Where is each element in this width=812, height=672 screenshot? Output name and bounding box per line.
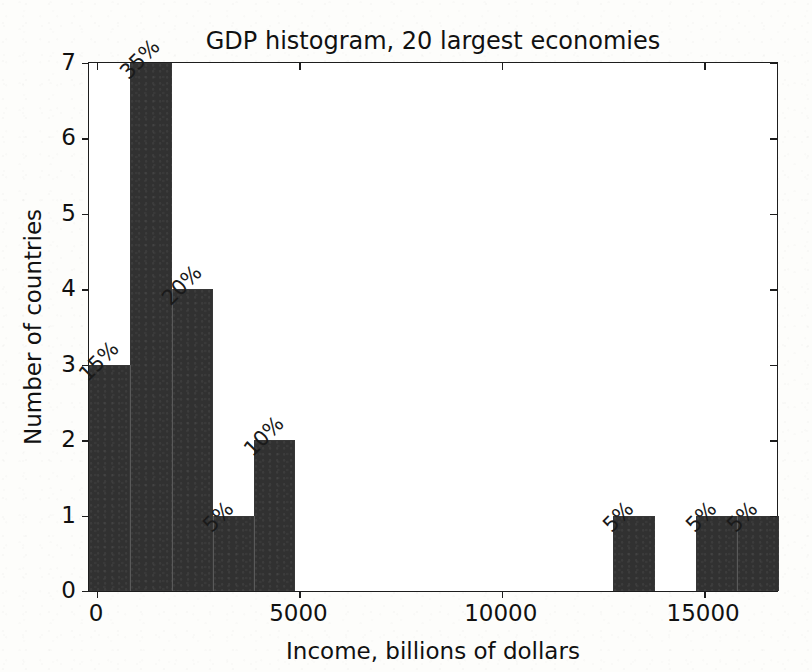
y-axis-tick-label: 4 xyxy=(40,275,76,301)
y-axis-tick-right xyxy=(770,365,777,366)
bar-separator xyxy=(172,289,173,591)
x-axis-tick xyxy=(299,591,300,598)
x-axis-tick-label: 0 xyxy=(89,600,104,626)
x-axis-tick-top xyxy=(704,63,705,70)
y-axis-tick xyxy=(82,138,89,139)
x-axis-tick xyxy=(97,591,98,598)
y-axis-tick-right xyxy=(770,516,777,517)
x-axis-tick-label: 15000 xyxy=(667,600,740,626)
histogram-bar xyxy=(130,63,171,591)
y-axis-tick xyxy=(82,289,89,290)
y-axis-tick-right xyxy=(770,591,777,592)
y-axis-tick xyxy=(82,516,89,517)
y-axis-tick-right xyxy=(770,440,777,441)
y-axis-tick-label: 7 xyxy=(40,49,76,75)
bar-separator xyxy=(130,365,131,591)
y-axis-tick-right xyxy=(770,214,777,215)
y-axis-tick-right xyxy=(770,289,777,290)
gdp-histogram-figure: reverse-side printing faintly visible th… xyxy=(0,0,812,672)
x-axis-tick xyxy=(502,591,503,598)
y-axis-tick-right xyxy=(770,63,777,64)
plot-area: 15%35%20%5%10%5%5%5% xyxy=(88,62,778,592)
y-axis-tick-label: 0 xyxy=(40,577,76,603)
bar-separator xyxy=(254,516,255,591)
y-axis-tick-label: 2 xyxy=(40,426,76,452)
y-axis-tick-label: 6 xyxy=(40,124,76,150)
y-axis-tick-label: 5 xyxy=(40,200,76,226)
x-axis-tick xyxy=(704,591,705,598)
x-axis-tick-label: 5000 xyxy=(269,600,328,626)
x-axis-tick-top xyxy=(97,63,98,70)
x-axis-tick-top xyxy=(502,63,503,70)
y-axis-tick-label: 1 xyxy=(40,502,76,528)
x-axis-tick-top xyxy=(299,63,300,70)
histogram-bar xyxy=(254,440,295,591)
y-axis-tick xyxy=(82,440,89,441)
chart-title: GDP histogram, 20 largest economies xyxy=(88,27,778,55)
y-axis-tick xyxy=(82,214,89,215)
histogram-bar xyxy=(89,365,130,591)
y-axis-tick-right xyxy=(770,138,777,139)
x-axis-label: Income, billions of dollars xyxy=(88,638,778,664)
y-axis-tick xyxy=(82,591,89,592)
x-axis-tick-label: 10000 xyxy=(464,600,537,626)
y-axis-tick xyxy=(82,365,89,366)
y-axis-tick-label: 3 xyxy=(40,351,76,377)
y-axis-tick xyxy=(82,63,89,64)
histogram-bar xyxy=(172,289,213,591)
